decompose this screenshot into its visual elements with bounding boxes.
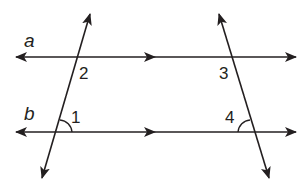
angle-4-arc xyxy=(238,120,250,132)
line-a-label: a xyxy=(24,30,35,51)
angle-1-label: 1 xyxy=(71,108,80,127)
line-a xyxy=(16,52,296,62)
transversal-left xyxy=(42,14,90,178)
angle-2-label: 2 xyxy=(79,64,88,83)
transversal-right xyxy=(219,14,269,178)
line-b-label: b xyxy=(24,103,35,124)
angle-4-label: 4 xyxy=(225,108,234,127)
angle-3-label: 3 xyxy=(219,64,228,83)
parallel-lines-diagram: a b 2 3 1 4 xyxy=(0,0,303,186)
